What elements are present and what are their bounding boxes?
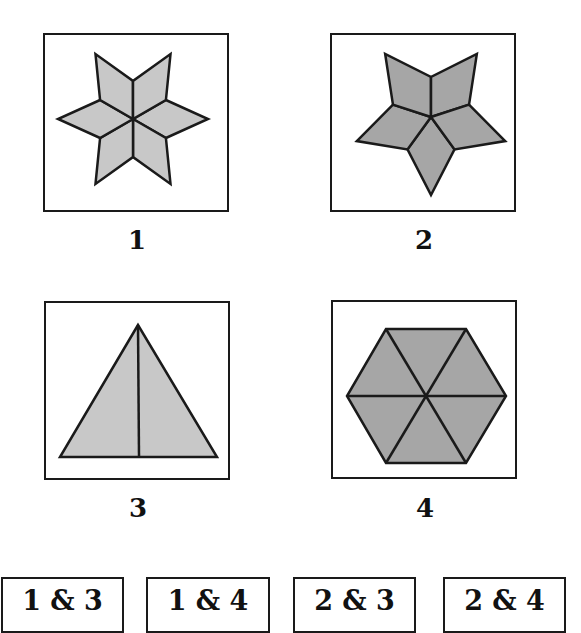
answer-option-2-and-3[interactable]: 2 & 3 <box>293 577 416 633</box>
six-point-star-icon <box>45 35 231 214</box>
figure-1-label: 1 <box>107 225 167 255</box>
figure-1-panel <box>43 33 229 212</box>
figure-3-panel <box>44 301 230 480</box>
answer-option-1-and-3[interactable]: 1 & 3 <box>1 577 124 633</box>
answer-option-1-and-4[interactable]: 1 & 4 <box>146 577 270 633</box>
triangle-icon <box>46 303 232 482</box>
figure-2-panel <box>330 33 516 212</box>
hexagon-icon <box>333 302 519 481</box>
figure-4-panel <box>331 300 517 479</box>
five-point-star-icon <box>332 35 518 214</box>
figure-2-label: 2 <box>394 225 454 255</box>
answer-option-2-and-4[interactable]: 2 & 4 <box>443 577 566 633</box>
figure-4-label: 4 <box>395 493 455 523</box>
figure-3-label: 3 <box>108 493 168 523</box>
